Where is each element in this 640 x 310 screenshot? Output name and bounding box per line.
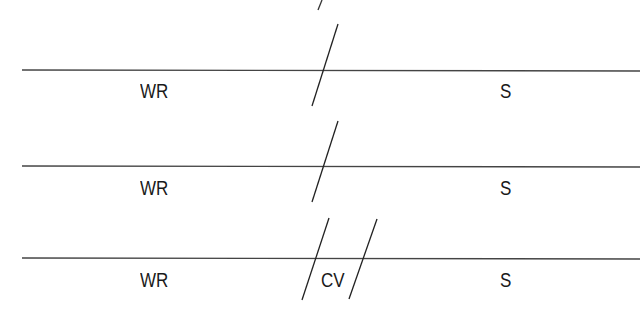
row-2-left-label: WR [140,177,168,200]
row-1-divider-slash [312,24,338,106]
row-3-left-label: WR [140,269,168,292]
row-1-right-label: S [500,80,511,103]
row-2-divider-slash [312,121,338,202]
diagram-canvas [0,0,640,310]
row-1-left-label: WR [140,80,168,103]
row-2-baseline [22,166,640,167]
partial-divider-slash [318,0,322,10]
row-2-right-label: S [500,177,511,200]
row-3-baseline [22,258,640,259]
row-3-middle-label: CV [321,269,345,292]
row-3-right-label: S [500,269,511,292]
row-1-baseline [22,70,640,71]
